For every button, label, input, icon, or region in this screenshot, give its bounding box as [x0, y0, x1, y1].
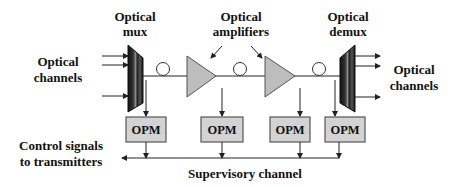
svg-text:Optical: Optical [37, 54, 79, 69]
opm-box-4: OPM [325, 117, 365, 142]
input-arrows [102, 56, 128, 96]
input-channels-label: Optical channels [34, 54, 82, 85]
optical-amplifier-2 [265, 56, 295, 97]
optical-demux [340, 45, 355, 112]
optical-amplifier-1 [187, 56, 216, 97]
opm-box-3: OPM [270, 117, 310, 142]
output-channels-label: Optical channels [390, 62, 438, 93]
mux-label: Optical mux [114, 9, 156, 39]
svg-text:OPM: OPM [131, 123, 160, 137]
opm-box-2: OPM [201, 117, 243, 142]
amplifiers-label: Optical amplifiers [213, 9, 269, 39]
svg-text:OPM: OPM [207, 123, 236, 137]
opm-box-1: OPM [126, 117, 166, 142]
svg-text:demux: demux [329, 24, 367, 39]
svg-text:Optical: Optical [393, 62, 435, 77]
svg-text:Control signals: Control signals [19, 138, 103, 153]
svg-text:mux: mux [123, 24, 148, 39]
svg-text:Optical: Optical [327, 9, 369, 24]
fiber-spool-icon [157, 63, 170, 76]
svg-text:to transmitters: to transmitters [20, 154, 103, 169]
pointer-arrow-icon [211, 46, 222, 58]
svg-text:channels: channels [34, 70, 82, 85]
control-signals-label: Control signals to transmitters [19, 138, 103, 169]
svg-text:amplifiers: amplifiers [213, 24, 269, 39]
svg-text:channels: channels [390, 78, 438, 93]
fiber-spool-icon [234, 63, 247, 76]
supervisory-channel-label: Supervisory channel [188, 166, 302, 181]
svg-text:Optical: Optical [220, 9, 262, 24]
svg-text:OPM: OPM [330, 123, 359, 137]
pointer-arrow-icon [251, 46, 262, 58]
optical-network-diagram: Optical mux Optical amplifiers Optical d… [0, 0, 457, 187]
svg-text:OPM: OPM [275, 123, 304, 137]
svg-text:Optical: Optical [114, 9, 156, 24]
optical-mux [128, 45, 143, 112]
output-arrows [355, 56, 380, 97]
fiber-spool-icon [313, 63, 326, 76]
demux-label: Optical demux [327, 9, 369, 39]
